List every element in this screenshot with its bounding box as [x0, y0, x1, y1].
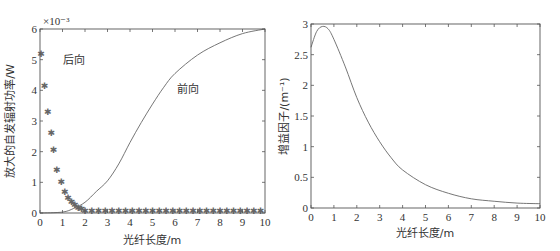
x-tick-label: 8 [217, 216, 223, 228]
gain-factor-chart: 012345678910 00.511.522.53 光纤长度/m 增益因子/(… [277, 18, 546, 240]
series-line [311, 26, 540, 203]
x-tick-label: 4 [127, 216, 133, 228]
y-tick-label: 2 [303, 79, 309, 91]
x-tick-label: 6 [446, 211, 452, 223]
x-tick-label: 7 [195, 216, 201, 228]
ase-power-chart: ✱✱✱✱✱✱✱✱✱✱✱✱✱✱✱✱✱✱✱✱✱✱✱✱✱✱✱✱✱✱✱✱✱✱✱✱✱✱✱✱… [3, 15, 271, 247]
x-tick-label: 3 [105, 216, 111, 228]
y-tick-label: 0 [32, 207, 38, 219]
series-annotations: 后向前向 [63, 53, 200, 96]
y-tick-label: 6 [32, 23, 38, 35]
series-marker: ✱ [53, 165, 61, 175]
y-tick-label: 0 [303, 202, 309, 214]
y-axis-ticks: 00.511.522.53 [294, 18, 540, 214]
x-tick-label: 10 [260, 216, 272, 228]
series-marker: ✱ [50, 145, 58, 155]
figure: ✱✱✱✱✱✱✱✱✱✱✱✱✱✱✱✱✱✱✱✱✱✱✱✱✱✱✱✱✱✱✱✱✱✱✱✱✱✱✱✱… [0, 0, 560, 251]
x-tick-label: 2 [82, 216, 88, 228]
series-marker: ✱ [257, 206, 265, 216]
y-exponent-label: ×10⁻³ [43, 15, 70, 27]
y-tick-label: 1.5 [294, 110, 308, 122]
y-tick-label: 2 [32, 146, 38, 158]
plot-frame [311, 24, 540, 208]
x-tick-label: 6 [172, 216, 178, 228]
x-tick-label: 4 [400, 211, 406, 223]
x-tick-label: 1 [331, 211, 337, 223]
x-tick-label: 3 [377, 211, 383, 223]
x-tick-label: 8 [491, 211, 497, 223]
series-annotation: 前向 [177, 82, 199, 96]
y-tick-label: 0.5 [294, 171, 308, 183]
plot-area [311, 26, 540, 203]
y-tick-label: 3 [303, 18, 309, 30]
x-tick-label: 9 [514, 211, 520, 223]
x-tick-label: 9 [240, 216, 246, 228]
y-tick-label: 1 [303, 141, 309, 153]
y-tick-label: 5 [32, 54, 38, 66]
series-marker: ✱ [44, 107, 52, 117]
x-axis-label: 光纤长度/m [396, 226, 454, 240]
x-tick-label: 5 [150, 216, 156, 228]
series-marker: ✱ [41, 81, 49, 91]
series-marker: ✱ [37, 49, 45, 59]
y-axis-label: 增益因子/(m⁻¹) [277, 77, 291, 154]
y-tick-label: 2.5 [294, 49, 308, 61]
y-axis-label: 放大的自发辐射功率/W [3, 64, 17, 178]
series-annotation: 后向 [63, 53, 85, 67]
y-tick-label: 1 [32, 176, 38, 188]
x-tick-label: 0 [37, 216, 43, 228]
x-tick-label: 10 [535, 211, 547, 223]
x-tick-label: 1 [60, 216, 66, 228]
y-tick-label: 4 [32, 84, 38, 96]
x-tick-label: 2 [354, 211, 360, 223]
x-tick-label: 0 [308, 211, 314, 223]
x-axis-ticks: 012345678910 [308, 24, 546, 223]
x-axis-label: 光纤长度/m [123, 233, 181, 247]
y-tick-label: 3 [32, 115, 38, 127]
x-tick-label: 5 [423, 211, 429, 223]
series-marker: ✱ [47, 128, 55, 138]
x-tick-label: 7 [469, 211, 475, 223]
